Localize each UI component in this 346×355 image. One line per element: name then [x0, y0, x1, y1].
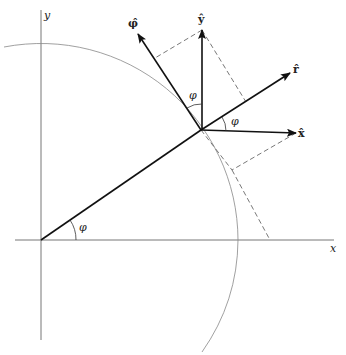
x-axis-label: x [330, 243, 336, 254]
angle-arc-y-phi [187, 104, 202, 108]
r-hat-vector [201, 73, 290, 130]
x-hat-label: x̂ [298, 128, 305, 139]
phi-hat-vector [138, 34, 201, 130]
y-hat-label: ŷ [198, 14, 204, 25]
angle-label-x-r: φ [231, 116, 239, 127]
y-axis-label: y [44, 10, 50, 21]
dashed-projection-lines [155, 30, 296, 240]
r-hat-label: r̂ [293, 64, 299, 75]
angle-arc-origin [70, 220, 76, 240]
circle-arc [4, 43, 238, 352]
phi-hat-label: φ̂ [128, 18, 138, 29]
x-hat-vector [201, 130, 296, 133]
angle-label-origin: φ [79, 222, 87, 233]
angle-label-y-phi: φ [189, 90, 197, 101]
polar-unit-vectors-diagram: y x φ̂ ŷ r̂ x̂ φ φ φ [0, 0, 346, 355]
angle-arc-x-r [222, 117, 226, 131]
radius-line [41, 130, 201, 240]
